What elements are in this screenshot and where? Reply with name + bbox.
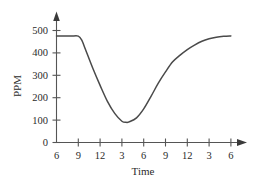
x-tick-label-3: 3 <box>119 150 124 161</box>
y-axis-arrow-icon <box>53 12 60 22</box>
y-axis-tick-labels: 0 100 200 300 400 500 <box>32 25 48 148</box>
x-tick-label-1: 9 <box>76 150 81 161</box>
x-tick-label-7: 3 <box>206 150 211 161</box>
x-tick-label-8: 6 <box>228 150 233 161</box>
y-tick-label-300: 300 <box>32 70 48 81</box>
x-axis <box>57 139 248 146</box>
ppm-data-curve <box>57 36 231 123</box>
y-axis-title: PPM <box>11 75 23 97</box>
x-tick-label-5: 9 <box>163 150 168 161</box>
x-tick-label-4: 6 <box>141 150 146 161</box>
x-axis-title: Time <box>132 165 155 177</box>
y-tick-label-100: 100 <box>32 115 48 126</box>
x-axis-tick-labels: 6 9 12 3 6 9 12 3 6 <box>54 150 234 161</box>
ppm-vs-time-line-chart: 0 100 200 300 400 500 6 9 12 3 6 9 12 <box>0 0 257 181</box>
y-tick-label-400: 400 <box>32 47 48 58</box>
y-tick-label-500: 500 <box>32 25 48 36</box>
x-tick-label-6: 12 <box>182 150 193 161</box>
y-axis <box>53 12 60 143</box>
y-tick-label-0: 0 <box>43 137 48 148</box>
x-axis-arrow-icon <box>237 139 247 146</box>
x-tick-label-2: 12 <box>95 150 106 161</box>
x-tick-label-0: 6 <box>54 150 59 161</box>
y-tick-label-200: 200 <box>32 92 48 103</box>
chart-screenshot: 0 100 200 300 400 500 6 9 12 3 6 9 12 <box>0 0 257 181</box>
